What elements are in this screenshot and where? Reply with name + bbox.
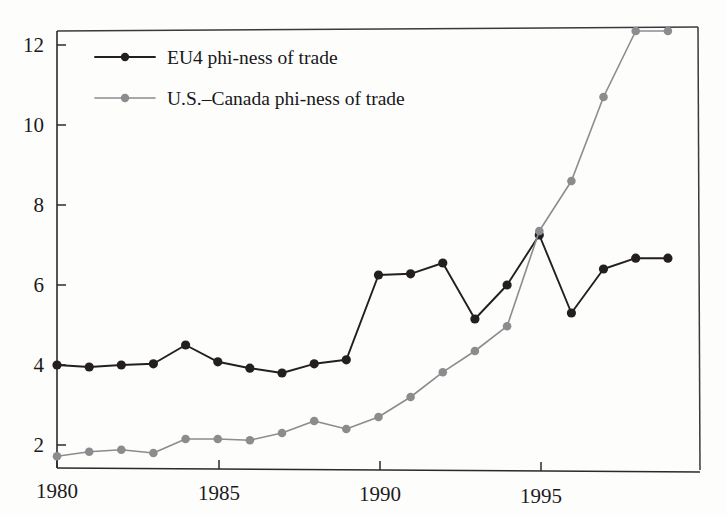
legend-entry-eu4: EU4 phi-ness of trade — [95, 47, 338, 68]
data-point — [85, 448, 94, 457]
series-path-eu4 — [57, 235, 668, 373]
data-point — [310, 359, 319, 368]
data-point — [438, 258, 447, 267]
data-point — [535, 227, 544, 236]
y-axis-labels: 12 10 8 6 4 2 — [23, 33, 45, 457]
chart-figure: 12 10 8 6 4 2 1980 1985 1990 1995 — [0, 0, 727, 516]
data-point — [181, 340, 190, 349]
data-point — [599, 93, 608, 102]
legend-label-eu4: EU4 phi-ness of trade — [167, 47, 338, 68]
data-point — [245, 364, 254, 373]
chart-legend: EU4 phi-ness of trade U.S.–Canada phi-ne… — [95, 47, 405, 109]
data-point — [471, 347, 480, 356]
data-point — [664, 27, 673, 36]
x-axis-labels: 1980 1985 1990 1995 — [36, 479, 562, 508]
data-point — [567, 308, 576, 317]
data-point — [406, 393, 415, 402]
data-point — [567, 177, 576, 186]
data-point — [310, 417, 319, 426]
data-point — [599, 264, 608, 273]
data-point — [503, 280, 512, 289]
data-point — [181, 435, 190, 444]
x-tick-label-1985: 1985 — [198, 481, 240, 505]
data-point — [342, 425, 351, 434]
data-point — [149, 359, 158, 368]
data-point — [503, 322, 512, 331]
legend-marker-us-canada — [121, 94, 129, 102]
data-point — [213, 357, 222, 366]
data-point — [278, 429, 287, 438]
data-point — [85, 362, 94, 371]
data-point — [214, 435, 223, 444]
data-point — [631, 27, 640, 36]
y-tick-label-10: 10 — [23, 113, 44, 137]
data-point — [406, 269, 415, 278]
data-point — [149, 449, 158, 458]
data-point — [277, 368, 286, 377]
data-point — [470, 314, 479, 323]
x-tick-label-1980: 1980 — [36, 479, 78, 503]
legend-label-us-canada: U.S.–Canada phi-ness of trade — [167, 88, 405, 109]
x-tick-label-1990: 1990 — [359, 482, 401, 506]
x-tick-label-1995: 1995 — [520, 484, 562, 508]
y-tick-label-4: 4 — [34, 353, 45, 377]
y-tick-label-2: 2 — [34, 433, 45, 457]
data-point — [374, 270, 383, 279]
data-point — [342, 355, 351, 364]
frame-top — [57, 27, 698, 31]
line-chart: 12 10 8 6 4 2 1980 1985 1990 1995 — [0, 0, 727, 516]
data-point — [663, 254, 672, 263]
data-point — [52, 360, 61, 369]
data-point — [246, 436, 255, 445]
data-point — [53, 452, 62, 461]
legend-marker-eu4 — [121, 53, 129, 61]
frame-right — [698, 27, 700, 470]
x-axis-line — [57, 468, 700, 472]
data-point — [439, 368, 448, 377]
y-tick-label-12: 12 — [23, 33, 44, 57]
y-tick-label-8: 8 — [34, 193, 45, 217]
y-axis-ticks — [57, 45, 66, 445]
data-point — [117, 360, 126, 369]
data-point — [117, 446, 126, 455]
legend-entry-us-canada: U.S.–Canada phi-ness of trade — [95, 88, 405, 109]
y-tick-label-6: 6 — [34, 273, 45, 297]
data-point — [374, 413, 383, 422]
data-point — [631, 254, 640, 263]
